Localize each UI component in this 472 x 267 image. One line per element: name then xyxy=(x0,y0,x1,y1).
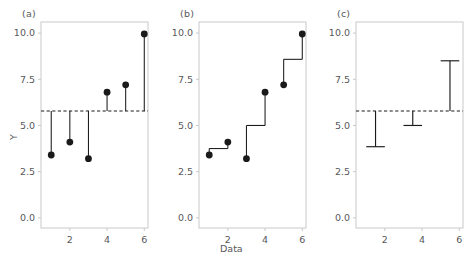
y-tick-label: 7.5 xyxy=(178,74,193,85)
x-tick-label: 4 xyxy=(419,234,425,245)
y-tick-label: 0.0 xyxy=(335,212,350,223)
y-tick-label: 2.5 xyxy=(20,166,35,177)
y-tick-label: 10.0 xyxy=(172,27,193,38)
x-tick-label: 2 xyxy=(67,234,73,245)
y-tick-label: 7.5 xyxy=(335,74,350,85)
x-tick-label: 6 xyxy=(141,234,147,245)
panel-c: (c) 0.02.55.07.510.0246 xyxy=(315,0,472,267)
data-point xyxy=(262,89,269,96)
y-tick-label: 7.5 xyxy=(20,74,35,85)
axes-box xyxy=(41,22,148,228)
y-tick-label: 5.0 xyxy=(335,120,350,131)
plot-frame: 0.02.55.07.510.0246 xyxy=(329,22,463,245)
plot-frame: 0.02.55.07.510.0246 xyxy=(172,22,306,245)
y-tick-label: 2.5 xyxy=(178,166,193,177)
data-point xyxy=(280,81,287,88)
data-point xyxy=(243,155,250,162)
data-point xyxy=(224,139,231,146)
y-tick-label: 2.5 xyxy=(335,166,350,177)
panel-b: (b) 0.02.55.07.510.0246 Data xyxy=(158,0,315,267)
plot-frame: 0.02.55.07.510.0246 xyxy=(14,22,148,245)
data-point xyxy=(48,152,55,159)
data-point xyxy=(122,81,129,88)
effect-bars-group xyxy=(366,61,459,147)
x-tick-label: 4 xyxy=(104,234,110,245)
data-point xyxy=(299,31,306,38)
y-tick-label: 0.0 xyxy=(178,212,193,223)
x-tick-label: 2 xyxy=(382,234,388,245)
data-point xyxy=(85,155,92,162)
x-tick-label: 4 xyxy=(262,234,268,245)
figure-three-panel-paired-data: (a) Y 0.02.55.07.510.0246 (b) 0.02.55.07… xyxy=(0,0,472,267)
pair-connectors-group xyxy=(209,34,302,159)
y-tick-label: 5.0 xyxy=(20,120,35,131)
points-group xyxy=(48,31,148,163)
data-point xyxy=(141,31,148,38)
x-tick-label: 6 xyxy=(299,234,305,245)
panel-c-plot: 0.02.55.07.510.0246 xyxy=(315,0,472,267)
y-tick-label: 10.0 xyxy=(329,27,350,38)
panel-a: (a) Y 0.02.55.07.510.0246 xyxy=(0,0,158,267)
y-tick-label: 5.0 xyxy=(178,120,193,131)
x-tick-label: 6 xyxy=(456,234,462,245)
points-group xyxy=(206,31,306,163)
data-point xyxy=(66,139,73,146)
data-point xyxy=(206,152,213,159)
panel-a-plot: 0.02.55.07.510.0246 xyxy=(0,0,158,267)
panel-b-plot: 0.02.55.07.510.0246 xyxy=(158,0,315,267)
data-point xyxy=(104,89,111,96)
x-axis-title: Data xyxy=(220,243,243,254)
y-tick-label: 10.0 xyxy=(14,27,35,38)
y-tick-label: 0.0 xyxy=(20,212,35,223)
stems-group xyxy=(51,34,144,159)
